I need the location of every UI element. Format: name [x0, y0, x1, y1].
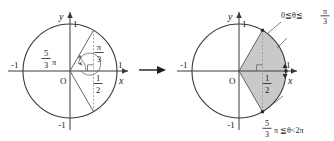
left-diagram: 1 -1 -1 1 O x y π 3 5 3 π 1 2: [8, 11, 128, 130]
right-diagram: 1 -1 -1 1 O x y 1 2 0≦θ≦ π 3 5 3 π ≦θ<2π: [177, 7, 330, 139]
left-y-axis-arrowhead: [67, 12, 73, 18]
left-tick-y-pos-label: 1: [73, 19, 78, 29]
left-arc-5pi-over-3-arrowhead: [79, 62, 83, 66]
left-tick-x-neg-label: -1: [11, 60, 19, 70]
right-x-axis-arrowhead: [291, 68, 297, 74]
left-half-denominator: 2: [96, 85, 100, 95]
right-condition-lower: 5 3 π ≦θ<2π: [263, 119, 304, 139]
right-condition-lower-denominator: 3: [265, 130, 269, 139]
left-pi3-denominator: 3: [97, 54, 101, 64]
left-y-axis-label: y: [58, 11, 64, 22]
right-half-numerator: 1: [265, 73, 269, 83]
right-leader-upper: [268, 22, 281, 33]
left-5pi3-suffix: π: [52, 57, 57, 67]
left-origin-label: O: [60, 76, 67, 86]
left-x-axis-arrowhead: [122, 68, 128, 74]
left-angle-label-5pi-over-3: 5 3 π: [42, 48, 58, 70]
left-value-label-one-half: 1 2: [94, 73, 103, 95]
right-condition-upper-denominator: 3: [323, 17, 327, 26]
right-half-denominator: 2: [265, 85, 269, 95]
left-5pi3-denominator: 3: [44, 60, 48, 70]
right-condition-lower-text: π ≦θ<2π: [274, 126, 303, 135]
left-pi3-numerator: π: [97, 42, 102, 52]
right-tick-y-neg-label: -1: [227, 120, 235, 130]
left-5pi3-numerator: 5: [44, 48, 48, 58]
unit-circle-figure: 1 -1 -1 1 O x y π 3 5 3 π 1 2: [0, 0, 334, 141]
right-condition-upper: 0≦θ≦ π 3: [281, 7, 330, 27]
right-arrow-head: [157, 66, 166, 74]
right-endpoint-upper-dot: [261, 29, 265, 33]
left-tick-y-neg-label: -1: [58, 120, 66, 130]
left-tick-x-pos-label: 1: [118, 60, 123, 70]
right-tick-x-neg-label: -1: [180, 60, 188, 70]
left-right-angle-marker: [88, 65, 94, 71]
right-y-axis-label: y: [227, 11, 233, 22]
right-y-axis-arrowhead: [236, 12, 242, 18]
right-condition-lower-numerator: 5: [265, 119, 269, 128]
right-tick-x-pos-label: 1: [286, 60, 291, 70]
right-leader-upper-2: [277, 38, 287, 48]
right-condition-upper-text: 0≦θ≦: [281, 11, 303, 20]
left-angle-label-pi-over-3: π 3: [95, 42, 104, 64]
right-x-axis-label: x: [287, 75, 293, 86]
right-tick-y-pos-label: 1: [242, 19, 247, 29]
right-condition-upper-numerator: π: [323, 7, 327, 16]
left-half-numerator: 1: [96, 73, 100, 83]
left-x-axis-label: x: [118, 75, 124, 86]
left-radius-5pi-over-3: [70, 71, 94, 112]
right-endpoint-lower-dot: [261, 110, 265, 114]
figure-container: 1 -1 -1 1 O x y π 3 5 3 π 1 2: [0, 0, 334, 141]
right-origin-label: O: [229, 76, 236, 86]
transition-arrow: [139, 66, 166, 74]
